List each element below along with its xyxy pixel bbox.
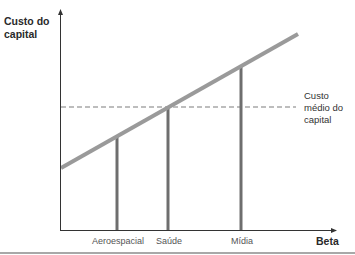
x-axis-arrow-icon [331,228,337,233]
y-axis-label: Custo do capital [4,15,50,41]
category-label-aeroespacial: Aeroespacial [92,236,144,247]
average-cost-label: Custo médio do capital [304,90,343,126]
average-cost-label-line3: capital [304,114,343,126]
category-label-saude: Saúde [156,236,182,247]
cost-of-capital-line [61,34,298,168]
x-axis-label: Beta [316,236,339,247]
chart-canvas [0,0,355,255]
average-cost-label-line2: médio do [304,102,343,114]
average-cost-label-line1: Custo [304,90,343,102]
bottom-divider [0,252,355,254]
y-axis-arrow-icon [58,9,63,15]
y-axis-label-line1: Custo do [4,15,50,28]
category-label-midia: Mídia [231,236,253,247]
y-axis-label-line2: capital [4,28,50,41]
